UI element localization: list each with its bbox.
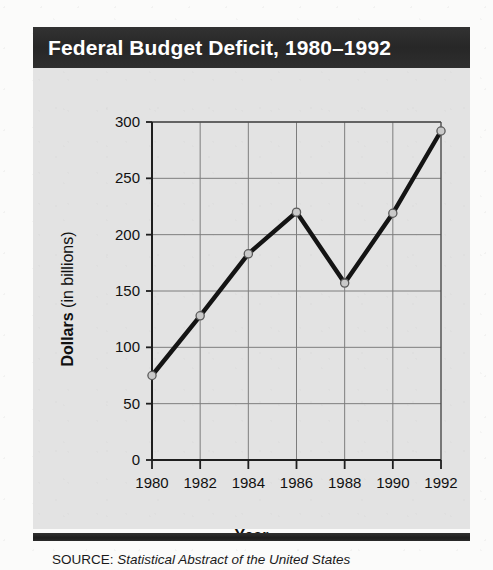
data-point-marker: [292, 208, 300, 216]
data-point-marker: [437, 127, 445, 135]
figure-bottom-rule: [33, 533, 470, 541]
x-tick-marks: [152, 460, 441, 469]
gridlines: [152, 122, 441, 460]
x-tick-label: 1982: [183, 474, 216, 491]
figure-card: Federal Budget Deficit, 1980–1992 Dollar…: [33, 27, 470, 542]
y-tick-label: 0: [132, 451, 140, 468]
figure-body: Dollars (in billions) 050100150200250300…: [33, 68, 470, 529]
y-tick-label: 150: [115, 282, 140, 299]
figure-title: Federal Budget Deficit, 1980–1992: [48, 36, 391, 60]
data-point-marker: [341, 279, 349, 287]
x-tick-label: 1980: [135, 474, 168, 491]
data-point-marker: [148, 371, 156, 379]
plot-area: 050100150200250300 198019821984198619881…: [33, 68, 470, 529]
y-tick-label: 50: [123, 395, 140, 412]
x-tick-label: 1986: [280, 474, 313, 491]
y-tick-label: 250: [115, 169, 140, 186]
x-tick-labels: 1980198219841986198819901992: [135, 474, 457, 491]
source-title: Statistical Abstract of the United State…: [117, 552, 350, 567]
data-point-marker: [196, 312, 204, 320]
x-tick-label: 1990: [376, 474, 409, 491]
x-tick-label: 1984: [232, 474, 265, 491]
x-tick-label: 1992: [424, 474, 457, 491]
y-tick-label: 300: [115, 113, 140, 130]
y-tick-label: 200: [115, 226, 140, 243]
y-tick-labels: 050100150200250300: [115, 113, 140, 468]
x-tick-label: 1988: [328, 474, 361, 491]
source-label: SOURCE:: [52, 552, 114, 567]
line-chart-svg: 050100150200250300 198019821984198619881…: [33, 68, 470, 529]
figure-title-bar: Federal Budget Deficit, 1980–1992: [33, 27, 470, 68]
source-note: SOURCE: Statistical Abstract of the Unit…: [52, 552, 350, 567]
y-tick-label: 100: [115, 338, 140, 355]
data-point-marker: [244, 250, 252, 258]
data-point-marker: [389, 209, 397, 217]
